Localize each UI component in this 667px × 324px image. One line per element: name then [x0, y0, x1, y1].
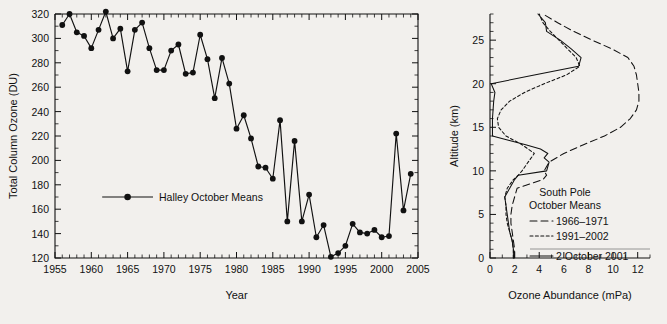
data-point — [197, 32, 203, 38]
left-y-tick-label: 240 — [31, 106, 49, 118]
data-point — [386, 233, 392, 239]
right-y-tick-label: 10 — [472, 165, 484, 177]
data-point — [226, 81, 232, 87]
data-point — [176, 42, 182, 48]
right-y-tick-label: 0 — [478, 252, 484, 264]
data-point — [59, 22, 65, 28]
data-point — [350, 221, 356, 227]
left-y-tick-label: 120 — [31, 252, 49, 264]
data-point — [96, 27, 102, 33]
data-point — [299, 219, 305, 225]
left-x-tick-label: 1965 — [116, 263, 140, 275]
left-x-tick-label: 1990 — [297, 263, 321, 275]
right-y-axis-title: Altitude (km) — [448, 105, 460, 167]
figure-canvas: 1955196019651970197519801985199019952000… — [0, 0, 667, 324]
left-y-tick-label: 140 — [31, 228, 49, 240]
data-point — [357, 229, 363, 235]
data-point — [379, 234, 385, 240]
legend-label-1991-2002: 1991–2002 — [556, 230, 609, 242]
left-y-tick-label: 320 — [31, 8, 49, 20]
right-x-tick-label: 4 — [536, 263, 542, 275]
data-point — [103, 9, 109, 15]
data-point — [292, 138, 298, 144]
data-point — [284, 219, 290, 225]
left-x-tick-label: 1980 — [225, 263, 249, 275]
data-point — [372, 227, 378, 233]
data-point — [241, 112, 247, 118]
data-point — [277, 117, 283, 123]
left-x-tick-label: 2005 — [406, 263, 430, 275]
left-y-axis-title: Total Column Ozone (DU) — [7, 73, 19, 199]
data-point — [88, 45, 94, 51]
left-y-tick-label: 260 — [31, 81, 49, 93]
left-x-tick-label: 1970 — [152, 263, 176, 275]
left-y-tick-label: 180 — [31, 179, 49, 191]
right-x-tick-label: 8 — [586, 263, 592, 275]
left-y-tick-label: 200 — [31, 154, 49, 166]
data-point — [110, 36, 116, 42]
data-point — [393, 131, 399, 137]
right-y-tick-label: 25 — [472, 34, 484, 46]
data-point — [335, 250, 341, 256]
data-point — [313, 234, 319, 240]
data-point — [168, 48, 174, 54]
data-point — [132, 27, 138, 33]
legend-heading-line1: South Pole — [539, 186, 591, 198]
data-point — [219, 55, 225, 61]
legend-label-halley: Halley October Means — [159, 191, 263, 203]
data-point — [364, 231, 370, 237]
left-y-tick-label: 160 — [31, 203, 49, 215]
left-y-tick-label: 280 — [31, 57, 49, 69]
left-x-tick-label: 1985 — [261, 263, 285, 275]
data-point — [255, 164, 261, 170]
data-point — [234, 126, 240, 132]
left-x-tick-label: 2000 — [370, 263, 394, 275]
ozone-figure: 1955196019651970197519801985199019952000… — [0, 0, 667, 324]
left-x-tick-label: 1955 — [43, 263, 67, 275]
data-point — [321, 222, 327, 228]
data-point — [212, 95, 218, 101]
data-point — [205, 56, 211, 62]
right-y-tick-label: 15 — [472, 121, 484, 133]
left-y-tick-label: 220 — [31, 130, 49, 142]
legend-marker-sample — [124, 194, 131, 201]
data-point — [117, 26, 123, 32]
left-x-tick-label: 1975 — [189, 263, 213, 275]
data-point — [81, 33, 87, 39]
legend-label-2-october-2001: 2 October 2001 — [556, 250, 629, 262]
data-point — [263, 165, 269, 171]
data-point — [401, 208, 407, 214]
legend-heading-line2: October Means — [529, 199, 601, 211]
left-x-axis-title: Year — [225, 289, 248, 301]
data-point — [161, 67, 167, 73]
right-x-tick-label: 12 — [632, 263, 644, 275]
data-point — [154, 67, 160, 73]
left-y-tick-label: 300 — [31, 32, 49, 44]
data-point — [248, 136, 254, 142]
data-point — [74, 29, 80, 35]
data-point — [343, 243, 349, 249]
data-point — [146, 45, 152, 51]
right-x-tick-label: 6 — [561, 263, 567, 275]
data-point — [306, 192, 312, 198]
data-point — [139, 20, 145, 26]
legend-label-1966-1971: 1966–1971 — [556, 215, 609, 227]
data-point — [67, 11, 73, 17]
data-point — [328, 254, 334, 260]
data-point — [190, 70, 196, 76]
right-x-tick-label: 10 — [607, 263, 619, 275]
right-x-axis-title: Ozone Abundance (mPa) — [508, 289, 632, 301]
data-point — [183, 71, 189, 77]
right-y-tick-label: 20 — [472, 78, 484, 90]
data-point — [408, 171, 414, 177]
right-x-tick-label: 2 — [512, 263, 518, 275]
left-x-tick-label: 1960 — [80, 263, 104, 275]
left-x-tick-label: 1995 — [334, 263, 358, 275]
right-y-tick-label: 5 — [478, 208, 484, 220]
right-x-tick-label: 0 — [487, 263, 493, 275]
data-point — [270, 176, 276, 182]
data-point — [125, 68, 131, 74]
